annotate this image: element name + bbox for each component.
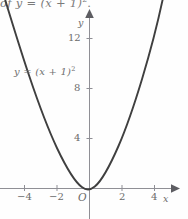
y-tick-label-12: 12 xyxy=(68,33,81,43)
curve-equation-label: y = (x + 1)2 xyxy=(14,66,75,77)
curve-equation-exponent: 2 xyxy=(71,65,75,73)
x-tick-label-4: 4 xyxy=(151,192,157,202)
x-tick-label--2: −2 xyxy=(49,192,64,202)
parabola-figure: of y = (x + 1)2. −4 −2 2 4 4 8 12 O xyxy=(0,0,188,219)
x-tick-label-2: 2 xyxy=(119,192,125,202)
curve-equation-base: y = (x + 1) xyxy=(14,66,71,77)
origin-label: O xyxy=(78,192,87,203)
x-tick-label--4: −4 xyxy=(17,192,32,202)
y-axis-arrowhead xyxy=(85,9,94,18)
parabola-path-helper xyxy=(4,1,173,180)
y-axis-label: y xyxy=(78,18,83,28)
y-tick-label-8: 8 xyxy=(74,83,80,93)
x-axis-label: x xyxy=(163,194,168,204)
parabola-curve xyxy=(4,0,163,189)
plot-canvas xyxy=(0,0,188,219)
x-axis-arrowhead xyxy=(171,184,180,193)
y-tick-label-4: 4 xyxy=(74,133,80,143)
